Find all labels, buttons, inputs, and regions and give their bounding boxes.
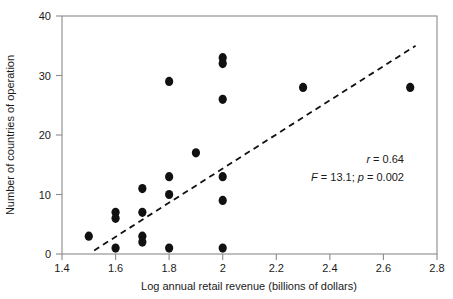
data-point [165, 190, 173, 199]
chart-canvas: 0 10 20 30 40 1.4 1.6 1.8 2 2.2 2.4 2.6 [0, 0, 453, 299]
data-point [165, 172, 173, 181]
x-tick-label-1-6: 1.6 [108, 262, 123, 274]
data-point [219, 172, 227, 181]
p-symbol: p [357, 171, 364, 183]
data-point [299, 83, 307, 92]
y-axis-title: Number of countries of operation [4, 55, 16, 215]
x-axis-ticks [62, 254, 437, 260]
f-value: = 13.1; [318, 171, 358, 183]
y-tick-label-10: 10 [39, 189, 51, 201]
x-tick-label-1-4: 1.4 [54, 262, 69, 274]
data-point [219, 196, 227, 205]
x-tick-label-1-8: 1.8 [161, 262, 176, 274]
y-tick-label-20: 20 [39, 129, 51, 141]
ftest-annotation: F = 13.1; p = 0.002 [311, 171, 404, 183]
data-point [219, 243, 227, 252]
x-tick-label-2-8: 2.8 [429, 262, 444, 274]
data-point [85, 232, 93, 241]
data-point [138, 184, 146, 193]
y-tick-label-30: 30 [39, 70, 51, 82]
y-tick-label-0: 0 [45, 248, 51, 260]
x-tick-label-2-4: 2.4 [322, 262, 337, 274]
data-point [165, 77, 173, 86]
correlation-value: = 0.64 [370, 153, 404, 165]
data-point [219, 59, 227, 68]
data-point [192, 148, 200, 157]
scatter-plot-figure: 0 10 20 30 40 1.4 1.6 1.8 2 2.2 2.4 2.6 [0, 0, 453, 299]
data-point [219, 95, 227, 104]
data-point [138, 208, 146, 217]
statistics-annotation: r = 0.64 F = 13.1; p = 0.002 [311, 153, 404, 183]
x-tick-label-2-6: 2.6 [376, 262, 391, 274]
x-axis-tick-labels: 1.4 1.6 1.8 2 2.2 2.4 2.6 2.8 [54, 262, 444, 274]
x-tick-label-2-2: 2.2 [269, 262, 284, 274]
data-point [165, 243, 173, 252]
y-tick-label-40: 40 [39, 10, 51, 22]
y-axis-ticks [56, 16, 62, 254]
data-point [111, 214, 119, 223]
y-axis-tick-labels: 0 10 20 30 40 [39, 10, 51, 260]
x-tick-label-2-0: 2 [220, 262, 226, 274]
x-axis-title: Log annual retail revenue (billions of d… [141, 280, 357, 292]
data-point [111, 243, 119, 252]
correlation-annotation: r = 0.64 [366, 153, 404, 165]
data-point [138, 238, 146, 247]
p-value: = 0.002 [364, 171, 404, 183]
trend-line [94, 46, 415, 251]
data-point [406, 83, 414, 92]
data-points-group [85, 53, 415, 253]
